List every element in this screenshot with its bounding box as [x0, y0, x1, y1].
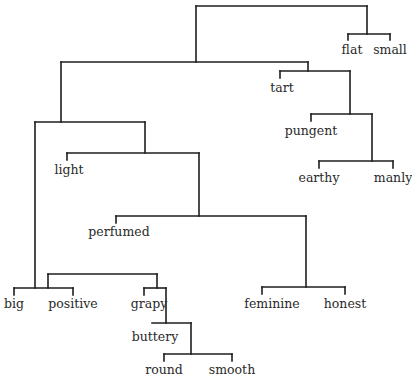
leaf-label-big: big — [4, 297, 24, 311]
leaf-label-feminine: feminine — [244, 297, 299, 311]
leaf-label-round: round — [145, 363, 183, 377]
leaf-label-tart: tart — [270, 81, 293, 95]
leaf-label-earthy: earthy — [299, 171, 340, 185]
leaf-label-light: light — [54, 163, 83, 177]
leaf-label-grapy: grapy — [131, 297, 168, 311]
leaf-label-pungent: pungent — [285, 124, 338, 138]
leaf-label-small: small — [373, 43, 407, 57]
leaf-label-honest: honest — [324, 297, 366, 311]
leaf-label-smooth: smooth — [209, 363, 255, 377]
leaf-label-perfumed: perfumed — [88, 225, 149, 239]
leaf-label-positive: positive — [48, 297, 97, 311]
leaf-label-manly: manly — [374, 171, 412, 185]
leaf-label-flat: flat — [342, 43, 363, 57]
leaf-label-buttery: buttery — [132, 330, 179, 344]
